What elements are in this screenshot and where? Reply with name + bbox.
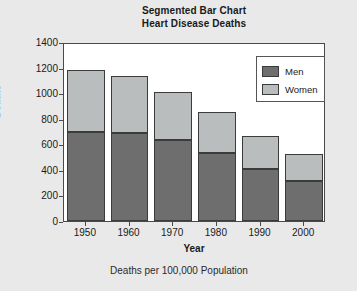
bar-group[interactable] bbox=[111, 76, 149, 221]
x-tick-mark bbox=[172, 222, 173, 226]
bar-segment-men[interactable] bbox=[154, 140, 192, 221]
y-tick-label: 400 bbox=[18, 166, 58, 176]
chart-footnote: Deaths per 100,000 Population bbox=[33, 265, 325, 276]
y-tick-label: 1400 bbox=[18, 38, 58, 48]
x-tick-mark bbox=[260, 222, 261, 226]
bar-segment-men[interactable] bbox=[198, 153, 236, 221]
y-tick-label: 1200 bbox=[18, 64, 58, 74]
chart-title-block: Segmented Bar Chart Heart Disease Deaths bbox=[63, 5, 325, 30]
y-tick-label: 0 bbox=[18, 217, 58, 227]
x-tick-label: 2000 bbox=[280, 227, 326, 238]
legend-label-men: Men bbox=[285, 66, 303, 77]
x-tick-mark bbox=[303, 222, 304, 226]
x-tick-label: 1960 bbox=[106, 227, 152, 238]
bar-segment-women[interactable] bbox=[285, 154, 323, 181]
bar-group[interactable] bbox=[242, 136, 280, 221]
bar-segment-men[interactable] bbox=[111, 133, 149, 221]
legend-swatch-women bbox=[262, 84, 279, 95]
x-axis-label: Year bbox=[63, 243, 325, 254]
bar-segment-women[interactable] bbox=[198, 112, 236, 153]
bar-segment-men[interactable] bbox=[285, 181, 323, 221]
chart-figure: Segmented Bar Chart Heart Disease Deaths… bbox=[0, 0, 357, 291]
chart-subtitle: Heart Disease Deaths bbox=[63, 18, 325, 31]
bar-segment-men[interactable] bbox=[242, 169, 280, 221]
y-tick-label: 800 bbox=[18, 115, 58, 125]
y-tick-label: 1000 bbox=[18, 89, 58, 99]
x-tick-mark bbox=[216, 222, 217, 226]
legend-swatch-men bbox=[262, 66, 279, 77]
chart-title: Segmented Bar Chart bbox=[63, 5, 325, 18]
y-axis-label: Deaths bbox=[0, 85, 2, 118]
bar-group[interactable] bbox=[285, 154, 323, 221]
x-tick-label: 1970 bbox=[149, 227, 195, 238]
bar-group[interactable] bbox=[198, 112, 236, 221]
bar-segment-women[interactable] bbox=[242, 136, 280, 169]
bar-segment-women[interactable] bbox=[67, 70, 105, 131]
x-tick-label: 1990 bbox=[237, 227, 283, 238]
y-tick-label: 200 bbox=[18, 191, 58, 201]
bar-group[interactable] bbox=[154, 92, 192, 221]
legend-label-women: Women bbox=[285, 84, 318, 95]
x-tick-mark bbox=[129, 222, 130, 226]
bar-group[interactable] bbox=[67, 70, 105, 221]
bar-segment-women[interactable] bbox=[111, 76, 149, 134]
bar-segment-men[interactable] bbox=[67, 132, 105, 222]
x-tick-mark bbox=[85, 222, 86, 226]
x-tick-label: 1980 bbox=[193, 227, 239, 238]
chart-legend: Men Women bbox=[256, 56, 325, 102]
x-tick-label: 1950 bbox=[62, 227, 108, 238]
y-tick-label: 600 bbox=[18, 140, 58, 150]
y-tick-mark bbox=[59, 222, 63, 223]
legend-item-men: Men bbox=[262, 62, 324, 80]
bar-segment-women[interactable] bbox=[154, 92, 192, 140]
legend-item-women: Women bbox=[262, 80, 324, 98]
